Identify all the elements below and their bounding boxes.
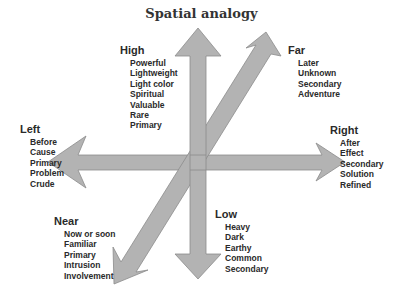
list-item: Light color	[130, 79, 178, 89]
list-item: Now or soon	[64, 229, 115, 239]
group-left: Left Before Cause Primary Problem Crude	[20, 123, 64, 189]
group-low-label: Low	[215, 208, 268, 221]
list-item: Primary	[30, 158, 64, 168]
list-item: Spiritual	[130, 89, 178, 99]
list-item: Primary	[64, 250, 115, 260]
list-item: Secondary	[298, 79, 341, 89]
list-item: Before	[30, 137, 64, 147]
group-low: Low Heavy Dark Earthy Common Secondary	[215, 208, 268, 274]
list-item: Familiar	[64, 239, 115, 249]
group-far-label: Far	[288, 44, 341, 57]
list-item: Primary	[130, 120, 178, 130]
group-right-label: Right	[330, 124, 383, 137]
list-item: Unknown	[298, 68, 341, 78]
list-item: Effect	[340, 148, 383, 158]
list-item: Adventure	[298, 89, 341, 99]
list-item: Heavy	[225, 222, 268, 232]
list-item: Involvement	[64, 271, 115, 281]
group-right: Right After Effect Secondary Solution Re…	[330, 124, 383, 190]
list-item: Dark	[225, 232, 268, 242]
list-item: Later	[298, 58, 341, 68]
list-item: Rare	[130, 110, 178, 120]
list-item: Solution	[340, 169, 383, 179]
list-item: Problem	[30, 168, 64, 178]
list-item: Lightweight	[130, 68, 178, 78]
list-item: Earthy	[225, 243, 268, 253]
group-left-label: Left	[20, 123, 64, 136]
list-item: After	[340, 138, 383, 148]
group-high: High Powerful Lightweight Light color Sp…	[120, 44, 178, 131]
list-item: Secondary	[225, 264, 268, 274]
list-item: Secondary	[340, 159, 383, 169]
group-near: Near Now or soon Familiar Primary Intrus…	[54, 215, 115, 281]
group-near-label: Near	[54, 215, 115, 228]
list-item: Intrusion	[64, 260, 115, 270]
list-item: Valuable	[130, 100, 178, 110]
list-item: Powerful	[130, 58, 178, 68]
list-item: Refined	[340, 180, 383, 190]
spatial-analogy-diagram: Spatial analogy High Powerful Lightweigh…	[0, 0, 403, 296]
group-far: Far Later Unknown Secondary Adventure	[288, 44, 341, 100]
list-item: Common	[225, 253, 268, 263]
list-item: Crude	[30, 179, 64, 189]
list-item: Cause	[30, 147, 64, 157]
group-high-label: High	[120, 44, 178, 57]
